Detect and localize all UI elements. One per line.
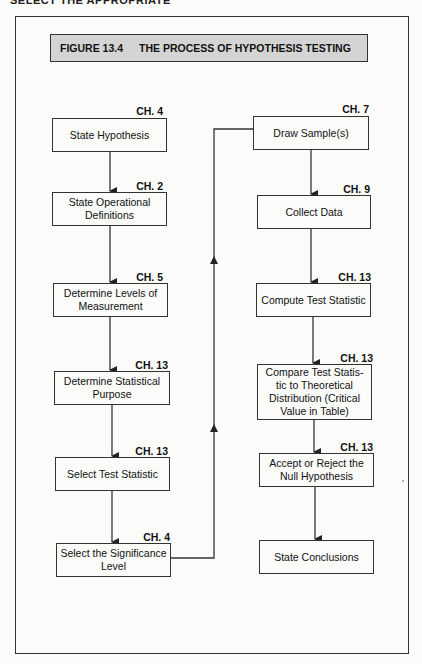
step-collect-data: Collect Data	[257, 195, 371, 229]
chapter-label: CH. 13	[340, 352, 373, 364]
step-label: Determine Statistical Purpose	[58, 375, 166, 401]
step-label: Select Test Statistic	[67, 468, 158, 481]
chapter-label: CH. 4	[136, 105, 163, 117]
chapter-label: CH. 13	[135, 359, 168, 371]
chapter-label: CH. 9	[343, 183, 370, 195]
step-label: Compute Test Statistic	[261, 294, 365, 307]
chapter-label: CH. 13	[135, 445, 168, 457]
step-state-operational-definitions: State Operational Definitions	[52, 192, 167, 226]
chapter-label: CH. 4	[143, 531, 170, 543]
step-state-conclusions: State Conclusions	[259, 540, 374, 574]
chapter-label: CH. 13	[340, 441, 373, 453]
step-label: Select the Significance Level	[60, 547, 167, 573]
step-label: Collect Data	[285, 206, 342, 219]
step-label: State Operational Definitions	[56, 196, 163, 222]
step-select-test-statistic: Select Test Statistic	[55, 457, 170, 491]
step-determine-levels-of-measurement: Determine Levels of Measurement	[53, 283, 168, 317]
step-label: State Conclusions	[274, 551, 359, 564]
step-label: Draw Sample(s)	[273, 127, 348, 140]
step-accept-or-reject-null: Accept or Reject the Null Hypothesis	[259, 453, 374, 487]
step-determine-statistical-purpose: Determine Statistical Purpose	[54, 371, 170, 405]
step-label: Determine Levels of Measurement	[57, 287, 164, 313]
chapter-label: CH. 7	[342, 103, 369, 115]
step-select-significance-level: Select the Significance Level	[56, 543, 171, 577]
step-label: Accept or Reject the Null Hypothesis	[263, 457, 370, 483]
chapter-label: CH. 13	[338, 271, 371, 283]
step-compute-test-statistic: Compute Test Statistic	[256, 283, 371, 317]
step-state-hypothesis: State Hypothesis	[52, 118, 167, 152]
step-label: Compare Test Statis-tic to Theoretical D…	[261, 366, 368, 418]
step-draw-samples: Draw Sample(s)	[253, 116, 369, 150]
step-label: State Hypothesis	[70, 129, 149, 142]
step-compare-test-statistic: Compare Test Statis-tic to Theoretical D…	[257, 364, 372, 420]
chapter-label: CH. 5	[136, 271, 163, 283]
chapter-label: CH. 2	[136, 180, 163, 192]
